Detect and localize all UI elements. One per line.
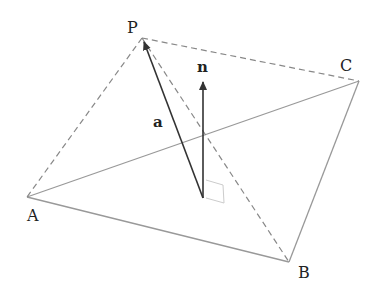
edge-BC: [289, 81, 359, 262]
edge-PC: [142, 38, 359, 81]
right-angle-marker: [206, 180, 224, 203]
label-vector-n: n: [197, 58, 208, 76]
tetrahedron-diagram: P A B C a n: [0, 0, 375, 302]
edge-PB: [142, 38, 289, 262]
label-C: C: [340, 56, 352, 75]
edge-AB: [27, 197, 289, 262]
edge-AC: [27, 81, 359, 197]
edge-PA: [27, 38, 142, 197]
label-A: A: [26, 206, 39, 225]
label-vector-a: a: [153, 113, 163, 131]
label-P: P: [127, 18, 138, 37]
label-B: B: [298, 263, 310, 282]
